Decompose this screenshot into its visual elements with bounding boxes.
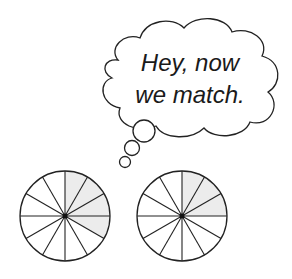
cloud-text-line1: Hey, now [141, 49, 241, 76]
thought-bubble-small [120, 157, 131, 168]
center-dot [180, 214, 185, 219]
right-fraction-circle [137, 171, 227, 261]
diagram-canvas: Hey, now we match. [0, 0, 292, 279]
left-fraction-circle [20, 171, 110, 261]
center-dot [63, 214, 68, 219]
thought-bubble-large [133, 120, 155, 142]
thought-bubble-medium [125, 141, 140, 156]
cloud-text-line2: we match. [135, 81, 244, 108]
